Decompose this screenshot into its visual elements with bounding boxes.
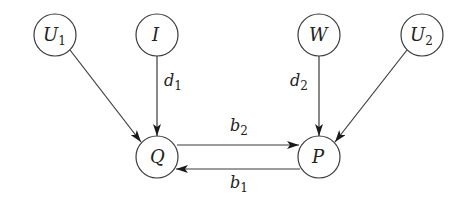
- node-i: I: [136, 14, 178, 56]
- node-w: W: [298, 14, 340, 56]
- edge-label-b1: b1: [230, 173, 248, 195]
- edge-label-d1: d1: [164, 71, 182, 93]
- svg-text:P: P: [311, 146, 325, 167]
- node-u2: U2: [401, 14, 443, 56]
- svg-text:I: I: [151, 24, 160, 45]
- svg-text:Q: Q: [150, 146, 165, 167]
- edge-u1-to-q: [70, 50, 141, 142]
- edge-label-d2: d2: [290, 71, 308, 93]
- edge-label-b2: b2: [230, 116, 248, 138]
- node-p: P: [298, 136, 340, 178]
- node-q: Q: [136, 136, 178, 178]
- causal-diagram: d1 d2 b2 b1 U1 I W U2 Q P: [0, 0, 475, 200]
- node-u1: U1: [34, 14, 76, 56]
- edge-u2-to-p: [335, 50, 407, 142]
- svg-text:W: W: [309, 24, 329, 45]
